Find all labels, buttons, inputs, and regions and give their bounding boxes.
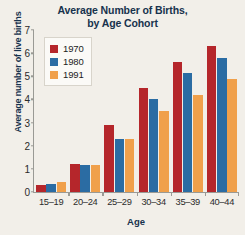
bar-1991-30–34[interactable] (159, 111, 169, 192)
bar-group (205, 30, 239, 192)
x-tick-mark (137, 192, 138, 196)
x-tick-label: 25–29 (107, 197, 131, 207)
y-axis-title: Average number of live births (13, 0, 23, 147)
bar-1970-20–24[interactable] (70, 164, 80, 192)
legend-swatch-icon (50, 45, 58, 53)
x-tick-mark (68, 192, 69, 196)
bar-1991-35–39[interactable] (193, 95, 203, 192)
bar-1980-35–39[interactable] (183, 73, 193, 192)
x-tick-label: 20–24 (73, 197, 97, 207)
bar-1991-20–24[interactable] (91, 165, 101, 192)
bar-chart-figure: Average Number of Births, by Age Cohort … (0, 0, 245, 235)
bar-1970-25–29[interactable] (104, 125, 114, 192)
bar-1970-40–44[interactable] (207, 46, 217, 192)
chart-title: Average Number of Births, by Age Cohort (0, 4, 245, 29)
bar-1970-15–19[interactable] (36, 185, 46, 192)
x-tick-mark (171, 192, 172, 196)
x-tick-label: 15–19 (39, 197, 63, 207)
bar-group (102, 30, 136, 192)
legend-item-1991[interactable]: 1991 (50, 68, 84, 81)
legend-item-1980[interactable]: 1980 (50, 55, 84, 68)
legend-swatch-icon (50, 58, 58, 66)
x-axis-title: Age (30, 216, 242, 227)
bar-1970-30–34[interactable] (139, 88, 149, 192)
legend-label: 1970 (63, 43, 84, 54)
bar-1991-15–19[interactable] (57, 182, 67, 192)
bar-1980-40–44[interactable] (217, 58, 227, 192)
bar-group (137, 30, 171, 192)
bar-1991-40–44[interactable] (227, 79, 237, 192)
bar-1980-20–24[interactable] (80, 165, 90, 192)
x-tick-mark (238, 192, 239, 196)
bar-1980-30–34[interactable] (149, 99, 159, 192)
bar-group (171, 30, 205, 192)
chart-legend: 197019801991 (44, 37, 92, 86)
bar-1980-15–19[interactable] (46, 184, 56, 192)
bar-1980-25–29[interactable] (115, 139, 125, 192)
x-tick-mark (102, 192, 103, 196)
legend-swatch-icon (50, 71, 58, 79)
x-tick-label: 40–44 (210, 197, 234, 207)
legend-item-1970[interactable]: 1970 (50, 42, 84, 55)
x-tick-mark (205, 192, 206, 196)
bar-1970-35–39[interactable] (173, 62, 183, 192)
x-tick-label: 35–39 (176, 197, 200, 207)
chart-title-line-2: by Age Cohort (0, 17, 245, 30)
bar-1991-25–29[interactable] (125, 139, 135, 192)
legend-label: 1991 (63, 69, 84, 80)
x-tick-label: 30–34 (141, 197, 165, 207)
legend-label: 1980 (63, 56, 84, 67)
chart-title-line-1: Average Number of Births, (0, 4, 245, 17)
